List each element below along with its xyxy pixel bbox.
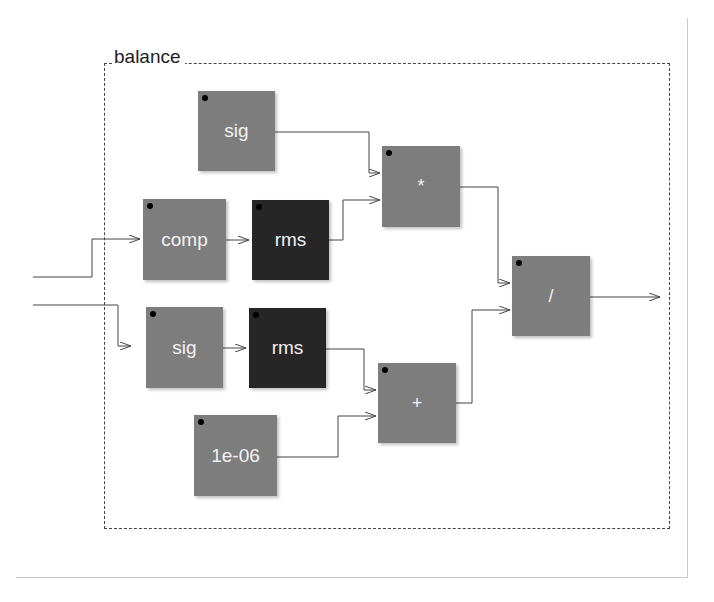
block-marker-dot	[198, 419, 204, 425]
wire-input2-sig	[33, 305, 131, 346]
wire-add-div	[456, 310, 510, 403]
block-marker-dot	[253, 312, 259, 318]
block-rms-bottom[interactable]: rms	[249, 308, 326, 388]
block-marker-dot	[147, 203, 153, 209]
block-divide[interactable]: /	[512, 256, 590, 336]
block-comp[interactable]: comp	[143, 199, 226, 280]
block-marker-dot	[386, 150, 392, 156]
block-label: *	[417, 176, 424, 197]
block-constant[interactable]: 1e-06	[194, 415, 277, 496]
block-marker-dot	[150, 311, 156, 317]
connection-wires	[0, 0, 714, 602]
block-sig-top[interactable]: sig	[198, 91, 275, 171]
wire-rms-mul	[329, 200, 380, 240]
block-marker-dot	[382, 367, 388, 373]
wire-rms-add	[326, 349, 376, 390]
block-rms-top[interactable]: rms	[252, 200, 329, 280]
block-label: sig	[172, 337, 196, 359]
block-label: rms	[275, 229, 307, 251]
block-label: rms	[272, 337, 304, 359]
block-label: comp	[161, 229, 207, 251]
block-marker-dot	[202, 95, 208, 101]
wire-input1-comp	[33, 239, 140, 277]
wire-const-add	[277, 416, 376, 457]
block-marker-dot	[516, 260, 522, 266]
block-label: sig	[224, 120, 248, 142]
block-label: 1e-06	[211, 445, 260, 467]
block-marker-dot	[256, 204, 262, 210]
wire-mul-div	[460, 187, 510, 283]
block-label: +	[412, 393, 423, 414]
block-multiply[interactable]: *	[382, 146, 460, 227]
diagram-canvas: balance	[0, 0, 714, 602]
block-label: /	[548, 286, 553, 307]
wire-sig-mul	[275, 132, 380, 173]
block-sig-bottom[interactable]: sig	[146, 307, 223, 388]
block-add[interactable]: +	[378, 363, 456, 443]
